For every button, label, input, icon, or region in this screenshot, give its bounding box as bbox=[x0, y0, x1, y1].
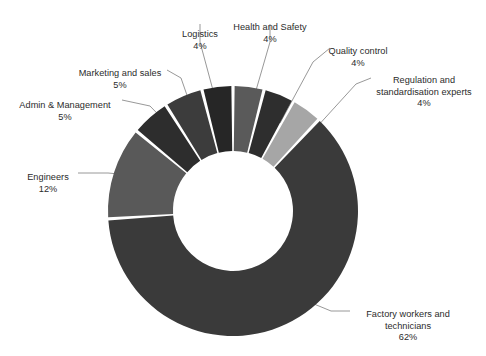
slice-label-admin-management-pct: 5% bbox=[8, 112, 122, 123]
slice-label-regulation-pct: 4% bbox=[362, 98, 486, 109]
slice-label-admin-management: Admin & Management 5% bbox=[8, 89, 122, 135]
slice-label-engineers: Engineers 12% bbox=[18, 161, 78, 207]
slice-label-regulation: Regulation and standardisation experts 4… bbox=[362, 64, 486, 121]
slice-label-health-and-safety-text: Health and Safety bbox=[233, 22, 306, 32]
slice-label-engineers-pct: 12% bbox=[18, 184, 78, 195]
slice-label-logistics-text: Logistics bbox=[182, 29, 218, 39]
slice-label-quality-control-text: Quality control bbox=[328, 46, 387, 56]
slice-label-health-and-safety-pct: 4% bbox=[222, 34, 318, 45]
donut-chart: Logistics 4% Health and Safety 4% Qualit… bbox=[0, 0, 486, 356]
slice-label-factory-workers-text: Factory workers and technicians bbox=[366, 309, 450, 330]
slice-label-factory-workers: Factory workers and technicians 62% bbox=[352, 298, 464, 355]
slice-label-health-and-safety: Health and Safety 4% bbox=[222, 11, 318, 57]
slice-label-factory-workers-pct: 62% bbox=[352, 332, 464, 343]
slice-label-regulation-text: Regulation and standardisation experts bbox=[376, 75, 471, 96]
slice-label-marketing-and-sales-text: Marketing and sales bbox=[79, 68, 162, 78]
slice-label-engineers-text: Engineers bbox=[27, 172, 69, 182]
donut-slices bbox=[108, 86, 358, 336]
slice-label-admin-management-text: Admin & Management bbox=[19, 100, 110, 110]
